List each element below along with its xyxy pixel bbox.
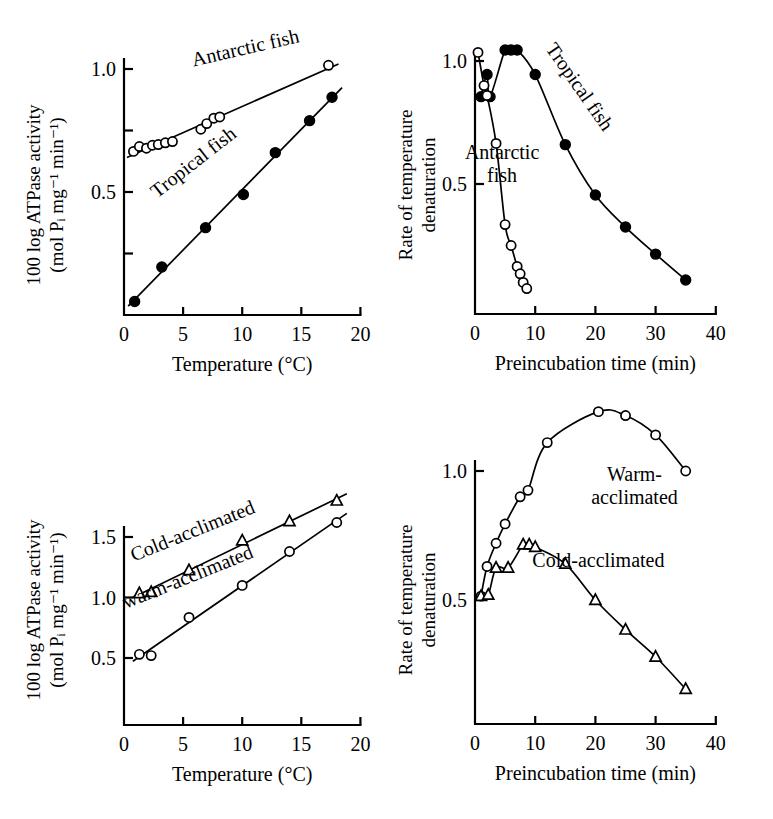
x-tick-label: 40 — [706, 732, 726, 754]
chart-svg-bottom-right: 0102030400.51.0Preincubation time (min)R… — [390, 410, 773, 819]
data-point-open-circle — [621, 411, 630, 420]
data-point-open-circle — [324, 61, 333, 70]
data-point-open-circle — [135, 650, 144, 659]
y-tick-label: 0.5 — [442, 589, 467, 611]
data-point-filled-circle — [327, 92, 337, 102]
x-axis-title: Temperature (°C) — [172, 763, 312, 786]
data-point-open-circle — [651, 430, 660, 439]
y-axis-title-line1: 100 log ATPase activity — [23, 519, 44, 701]
data-point-open-circle — [522, 284, 531, 293]
x-tick-label: 20 — [585, 732, 605, 754]
x-tick-label: 5 — [178, 323, 188, 345]
x-tick-label: 40 — [706, 322, 726, 344]
y-tick-label: 0.5 — [442, 173, 467, 195]
data-point-filled-circle — [305, 116, 315, 126]
x-tick-label: 10 — [232, 733, 252, 755]
y-tick-label: 1.5 — [91, 526, 116, 548]
data-point-filled-circle — [530, 70, 540, 80]
x-tick-label: 30 — [646, 732, 666, 754]
data-point-filled-circle — [238, 189, 248, 199]
data-point-filled-circle — [512, 45, 522, 55]
x-tick-label: 15 — [291, 733, 311, 755]
y-axis-title: 100 log ATPase activity(mol Pᵢ mg⁻¹ min⁻… — [23, 104, 68, 286]
y-axis-title-line1: 100 log ATPase activity — [23, 104, 44, 286]
y-axis-title: 100 log ATPase activity(mol Pᵢ mg⁻¹ min⁻… — [23, 519, 68, 701]
data-point-open-circle — [523, 486, 532, 495]
data-point-filled-circle — [560, 140, 570, 150]
y-axis-title-line2: denaturation — [418, 552, 439, 647]
series-annotation: Tropical fish — [146, 122, 241, 203]
data-point-open-circle — [473, 48, 482, 57]
x-tick-label: 0 — [119, 733, 129, 755]
data-point-open-circle — [501, 519, 510, 528]
data-point-open-circle — [501, 220, 510, 229]
data-point-open-circle — [332, 518, 341, 527]
y-tick-label: 1.0 — [91, 587, 116, 609]
series-tropical-fish: Tropical fish — [128, 88, 342, 307]
y-axis-title-line2: (mol Pᵢ mg⁻¹ min⁻¹) — [46, 532, 68, 687]
data-point-open-circle — [215, 112, 224, 121]
y-axis-title-line1: Rate of temperature — [395, 525, 416, 676]
data-point-filled-circle — [651, 249, 661, 259]
x-tick-label: 0 — [470, 322, 480, 344]
data-point-open-circle — [681, 466, 690, 475]
x-tick-label: 20 — [585, 322, 605, 344]
chart-panel-top-right: 0102030400.51.0Preincubation time (min)R… — [390, 0, 773, 410]
series-annotation-line1: Antarctic fish — [190, 24, 302, 70]
data-point-filled-circle — [482, 70, 492, 80]
chart-panel-top-left: 051015200.51.0Temperature (°C)100 log AT… — [0, 0, 390, 410]
data-point-open-circle — [285, 547, 294, 556]
series-annotation-line1: Cold-acclimated — [532, 549, 664, 571]
series-annotation: Tropical fish — [541, 38, 618, 135]
y-tick-label: 0.5 — [91, 181, 116, 203]
series-annotation: Warm-acclimated — [591, 463, 678, 508]
data-point-open-circle — [516, 492, 525, 501]
data-point-filled-circle — [201, 223, 211, 233]
figure-root: 051015200.51.0Temperature (°C)100 log AT… — [0, 0, 773, 819]
series-annotation-line1: Tropical fish — [541, 38, 618, 135]
x-tick-label: 20 — [350, 733, 370, 755]
axes-bottom-right: 0102030400.51.0 — [442, 460, 726, 754]
chart-svg-top-right: 0102030400.51.0Preincubation time (min)R… — [390, 0, 773, 410]
y-tick-label: 1.0 — [442, 460, 467, 482]
data-point-open-circle — [168, 137, 177, 146]
data-point-open-circle — [594, 407, 603, 416]
y-axis-title-line2: (mol Pᵢ mg⁻¹ min⁻¹) — [46, 117, 68, 272]
data-point-open-circle — [479, 81, 488, 90]
data-point-open-circle — [482, 562, 491, 571]
y-tick-label: 0.5 — [91, 647, 116, 669]
x-tick-label: 10 — [525, 732, 545, 754]
data-point-open-circle — [491, 539, 500, 548]
y-axis-title: Rate of temperaturedenaturation — [395, 110, 439, 261]
x-tick-label: 10 — [525, 322, 545, 344]
data-point-open-circle — [184, 613, 193, 622]
y-tick-label: 1.0 — [442, 50, 467, 72]
series-annotation: Cold-acclimated — [532, 549, 664, 571]
data-point-filled-circle — [621, 222, 631, 232]
data-point-open-circle — [147, 651, 156, 660]
chart-svg-bottom-left: 051015200.51.01.5Temperature (°C)100 log… — [0, 410, 390, 819]
data-point-filled-circle — [681, 275, 691, 285]
x-tick-label: 5 — [178, 733, 188, 755]
series-annotation-line2: acclimated — [591, 486, 678, 508]
x-tick-label: 0 — [470, 732, 480, 754]
series-annotation-line1: Antarctic — [465, 141, 540, 163]
x-axis-title: Preincubation time (min) — [495, 352, 696, 375]
chart-panel-bottom-left: 051015200.51.01.5Temperature (°C)100 log… — [0, 410, 390, 819]
series-annotation-line1: Tropical fish — [146, 122, 241, 203]
chart-svg-top-left: 051015200.51.0Temperature (°C)100 log AT… — [0, 0, 390, 410]
x-axis-title: Preincubation time (min) — [495, 762, 696, 785]
data-point-open-circle — [238, 581, 247, 590]
series-annotation-line1: Warm- — [607, 463, 662, 485]
data-point-filled-circle — [157, 262, 167, 272]
series-cold-acclimated: Cold-acclimated — [476, 539, 692, 694]
x-axis-title: Temperature (°C) — [172, 353, 312, 376]
y-axis-title: Rate of temperaturedenaturation — [395, 525, 439, 676]
data-point-filled-circle — [130, 296, 140, 306]
data-point-filled-circle — [270, 148, 280, 158]
x-tick-label: 0 — [119, 323, 129, 345]
x-tick-label: 30 — [646, 322, 666, 344]
y-tick-label: 1.0 — [91, 58, 116, 80]
series-annotation: Antarctic fish — [190, 24, 302, 70]
x-tick-label: 15 — [291, 323, 311, 345]
